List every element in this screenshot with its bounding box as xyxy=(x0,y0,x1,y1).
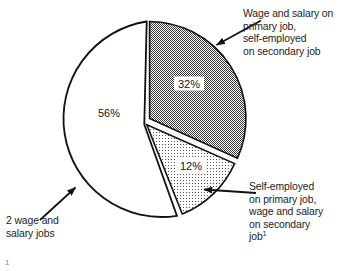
slice-label-56-text: 56% xyxy=(98,107,120,119)
callout-bottom-right-text: Self-employed on primary job, wage and s… xyxy=(249,181,323,242)
slice-label-12-text: 12% xyxy=(180,160,202,172)
pie-chart-figure: 32% 12% 56% Wage and salary on primary j… xyxy=(0,0,359,271)
footnote-marker-bottom: 1 xyxy=(5,258,9,267)
slice-label-32: 32% xyxy=(174,77,204,91)
callout-label-wage-primary-selfemployed-secondary: Wage and salary on primary job, self-emp… xyxy=(243,8,359,58)
slice-label-56: 56% xyxy=(98,107,120,119)
slice-label-32-text: 32% xyxy=(178,78,200,90)
slice-label-12: 12% xyxy=(176,159,206,173)
callout-label-two-wage-and-salary-jobs: 2 wage and salary jobs xyxy=(6,215,126,240)
callout-label-selfemployed-primary-wage-secondary: Self-employed on primary job, wage and s… xyxy=(249,181,359,244)
footnote-superscript-marker: 1 xyxy=(263,230,267,237)
